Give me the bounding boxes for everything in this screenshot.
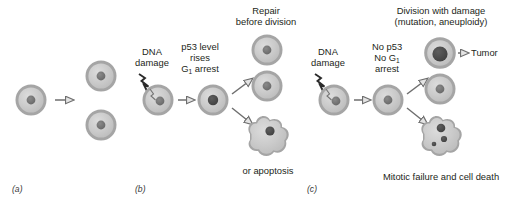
no-arrest-cell (373, 85, 404, 116)
panel-b-g1-arrest-label: G1 arrest (181, 63, 219, 75)
panel-b-g1-post: arrest (192, 63, 219, 74)
damaged-cell-b (143, 85, 174, 116)
panel-b-repair-line1: Repair (252, 5, 280, 16)
repaired-cell-bottom (252, 71, 283, 102)
dna-damage-bolt-icon-c (315, 74, 325, 91)
panel-c-death-label: Mitotic failure and cell death (383, 171, 499, 182)
panel-b: DNA damage p53 level rises G1 arrest Rep… (135, 5, 296, 194)
panel-b-repair-line2: before division (236, 16, 296, 27)
daughter-cell-bottom (86, 110, 117, 141)
damaged-cell-c (319, 85, 350, 116)
panel-b-p53-line1: p53 level (181, 41, 219, 52)
tumor-label: Tumor (471, 47, 498, 58)
arrested-cell (198, 85, 229, 116)
dna-damage-bolt-icon (139, 74, 149, 91)
dead-cell-fragmented (421, 116, 461, 156)
repaired-cell-top (252, 35, 283, 66)
panel-c: DNA damage No p53 No G1 arrest Division … (307, 5, 499, 194)
panel-c-arrow-division (407, 79, 427, 94)
panel-b-dna-label: DNA (142, 46, 163, 57)
panel-c-arrow-death (407, 108, 427, 124)
panel-c-damage-label: damage (311, 57, 345, 68)
parent-cell (16, 85, 47, 116)
panel-a: (a) (12, 61, 117, 195)
panel-b-damage-label: damage (135, 57, 169, 68)
panel-b-tag: (b) (135, 184, 146, 194)
cell-cycle-p53-diagram: (a) DNA damage p53 level rises G1 arrest (0, 0, 508, 202)
panel-b-apoptosis-label: or apoptosis (242, 165, 293, 176)
panel-c-dna-label: DNA (318, 46, 339, 57)
divided-cell (425, 74, 456, 105)
panel-b-p53-line2: rises (190, 52, 210, 63)
daughter-cell-top (86, 61, 117, 92)
panel-b-g1-pre: G (181, 63, 188, 74)
panel-c-tag: (c) (307, 184, 317, 194)
figure-canvas: (a) DNA damage p53 level rises G1 arrest (0, 0, 508, 202)
tumor-cell (424, 37, 456, 69)
panel-b-arrow-apoptosis (232, 108, 252, 124)
panel-c-division-line2: (mutation, aneuploidy) (395, 16, 488, 27)
apoptotic-cell (248, 116, 288, 156)
panel-b-arrow-repair (232, 79, 252, 94)
panel-a-tag: (a) (12, 184, 23, 194)
panel-c-arrest-label: arrest (375, 63, 399, 74)
panel-c-nop53-label: No p53 (372, 41, 402, 52)
panel-c-nog1-pre: No G (374, 52, 396, 63)
panel-c-division-line1: Division with damage (397, 5, 486, 16)
